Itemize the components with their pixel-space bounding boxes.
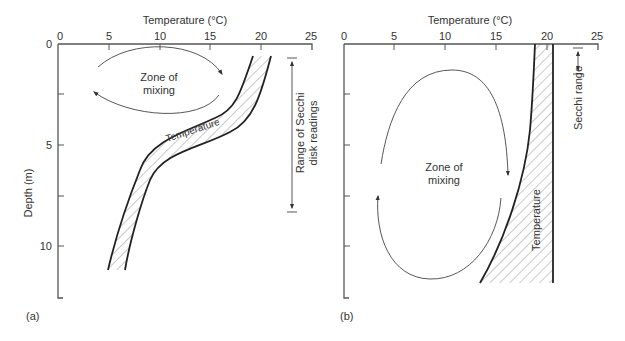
panel-b-y-axis	[344, 44, 349, 298]
panel-b-y-tick-marks	[344, 94, 350, 246]
panel-a-secchi-label-line1: Range of Secchi	[294, 93, 306, 174]
panel-b-label: (b)	[340, 310, 353, 322]
x-tick-label: 20	[255, 30, 267, 42]
panel-a-y-ticks: 0 5 10	[40, 38, 52, 252]
panel-a-y-axis	[58, 44, 63, 298]
x-tick-label: 10	[439, 30, 451, 42]
y-tick-label: 0	[46, 38, 52, 50]
x-tick-label: 5	[391, 30, 397, 42]
panel-a-x-axis-title: Temperature (°C)	[143, 14, 227, 26]
panel-a-zone-label-line1: Zone of	[140, 71, 178, 83]
panel-a-y-axis-title: Depth (m)	[22, 169, 34, 218]
x-tick-label: 20	[541, 30, 553, 42]
panel-a-x-axis	[58, 44, 312, 50]
panel-b-curve-label: Temperature	[530, 189, 542, 251]
y-tick-label: 10	[40, 240, 52, 252]
x-tick-label: 15	[204, 30, 216, 42]
x-tick-label: 0	[341, 30, 347, 42]
panel-b: Temperature (°C) 0 5 10 15 20 25 Tempera…	[340, 14, 603, 322]
panel-a-secchi-label-line2: disk readings	[307, 100, 319, 165]
panel-b-secchi-label: Secchi range	[572, 66, 584, 130]
panel-b-zone-label-line2: mixing	[428, 174, 460, 186]
panel-a: Temperature (°C) 0 5 10 15 20 25 0	[22, 14, 319, 322]
panel-a-label: (a)	[26, 310, 39, 322]
panel-b-x-axis-title: Temperature (°C)	[428, 14, 512, 26]
panel-a-x-tick-marks	[109, 44, 261, 50]
panel-b-x-ticks: 0 5 10 15 20 25	[341, 30, 603, 42]
panel-a-zone-label-line2: mixing	[143, 84, 175, 96]
panel-b-mixing-arrow-left	[378, 196, 501, 279]
panel-b-x-axis	[344, 44, 598, 50]
x-tick-label: 25	[305, 30, 317, 42]
x-tick-label: 10	[154, 30, 166, 42]
x-tick-label: 5	[106, 30, 112, 42]
y-tick-label: 5	[46, 139, 52, 151]
panel-b-mixing-arrow-right	[381, 70, 508, 175]
panel-a-mixing-arrow-top	[98, 47, 222, 74]
panel-b-temperature-region-fill	[480, 44, 553, 283]
x-tick-label: 25	[591, 30, 603, 42]
x-tick-label: 0	[57, 30, 63, 42]
x-tick-label: 15	[490, 30, 502, 42]
panel-a-y-tick-marks	[58, 94, 64, 246]
panel-a-x-ticks: 0 5 10 15 20 25	[57, 30, 317, 42]
panel-b-zone-label-line1: Zone of	[425, 161, 463, 173]
lake-stratification-diagram: Temperature (°C) 0 5 10 15 20 25 0	[0, 0, 625, 341]
panel-b-x-tick-marks	[394, 44, 547, 50]
